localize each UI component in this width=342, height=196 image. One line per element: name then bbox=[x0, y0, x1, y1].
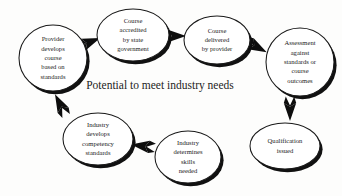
node-label-line: Assessment bbox=[284, 39, 315, 46]
node-label-line: by state bbox=[123, 35, 143, 42]
node-label-line: standards bbox=[41, 72, 66, 79]
node-label-line: Course bbox=[124, 16, 143, 23]
diagram-caption: Potential to meet industry needs bbox=[86, 79, 234, 92]
node-label-line: standards bbox=[86, 149, 111, 156]
node-label-line: outcomes bbox=[287, 76, 313, 83]
node-label-assessment-against-standards: Assessmentagainststandards orcourseoutco… bbox=[284, 39, 317, 83]
node-label-line: course bbox=[291, 67, 308, 74]
node-label-line: standards or bbox=[284, 58, 317, 65]
node-label-line: Course bbox=[208, 26, 227, 33]
node-label-line: develops bbox=[41, 44, 65, 51]
node-label-line: by provider bbox=[202, 45, 233, 52]
node-label-line: develops bbox=[86, 130, 110, 137]
node-label-line: competency bbox=[82, 139, 115, 146]
node-label-line: needed bbox=[179, 167, 198, 174]
node-label-line: Industry bbox=[177, 138, 200, 145]
node-label-line: accredited bbox=[119, 26, 147, 33]
node-label-line: course bbox=[44, 54, 61, 61]
node-label-line: issued bbox=[277, 146, 294, 153]
node-label-line: skills bbox=[181, 157, 195, 164]
node-label-line: government bbox=[117, 45, 149, 52]
node-label-line: Qualification bbox=[268, 137, 303, 144]
node-label-line: delivered bbox=[205, 36, 230, 43]
node-label-line: determines bbox=[174, 148, 203, 155]
flow-diagram: Providerdevelopscoursebased onstandardsC… bbox=[0, 0, 342, 196]
diagram-canvas: Providerdevelopscoursebased onstandardsC… bbox=[0, 0, 342, 196]
arrow-assessment-to-qualification bbox=[284, 97, 296, 122]
node-label-line: Industry bbox=[87, 120, 110, 127]
node-label-line: Provider bbox=[42, 35, 66, 42]
node-label-line: against bbox=[291, 48, 310, 55]
arrow-develops-to-provider bbox=[49, 91, 71, 118]
node-label-line: based on bbox=[41, 63, 65, 70]
